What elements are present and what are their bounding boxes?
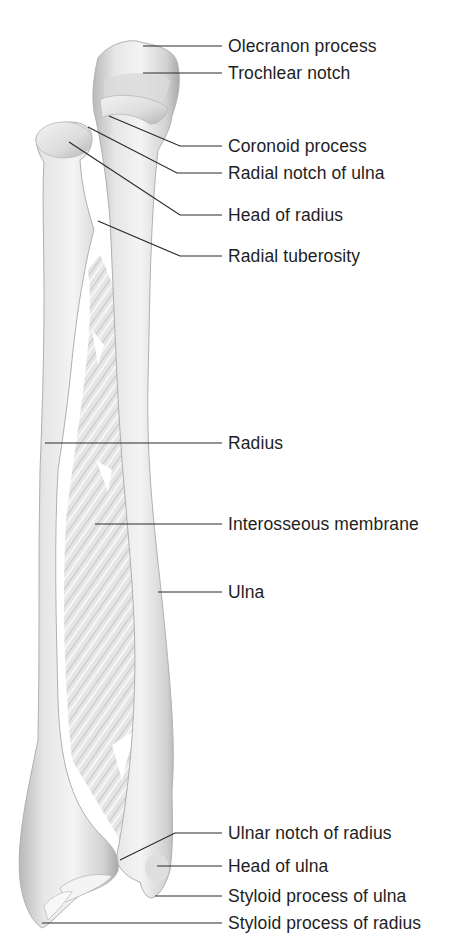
- label-head-of-ulna: Head of ulna: [228, 856, 328, 876]
- label-trochlear-notch: Trochlear notch: [228, 63, 350, 83]
- label-interosseous-membrane: Interosseous membrane: [228, 514, 419, 534]
- label-radius: Radius: [228, 433, 283, 453]
- label-ulnar-notch-of-radius: Ulnar notch of radius: [228, 823, 392, 843]
- label-coronoid-process: Coronoid process: [228, 136, 367, 156]
- label-styloid-process-of-ulna: Styloid process of ulna: [228, 886, 406, 906]
- label-radial-notch-of-ulna: Radial notch of ulna: [228, 163, 385, 183]
- label-ulna: Ulna: [228, 582, 264, 602]
- label-styloid-process-of-radius: Styloid process of radius: [228, 913, 421, 933]
- label-radial-tuberosity: Radial tuberosity: [228, 246, 360, 266]
- label-head-of-radius: Head of radius: [228, 205, 343, 225]
- label-olecranon-process: Olecranon process: [228, 36, 377, 56]
